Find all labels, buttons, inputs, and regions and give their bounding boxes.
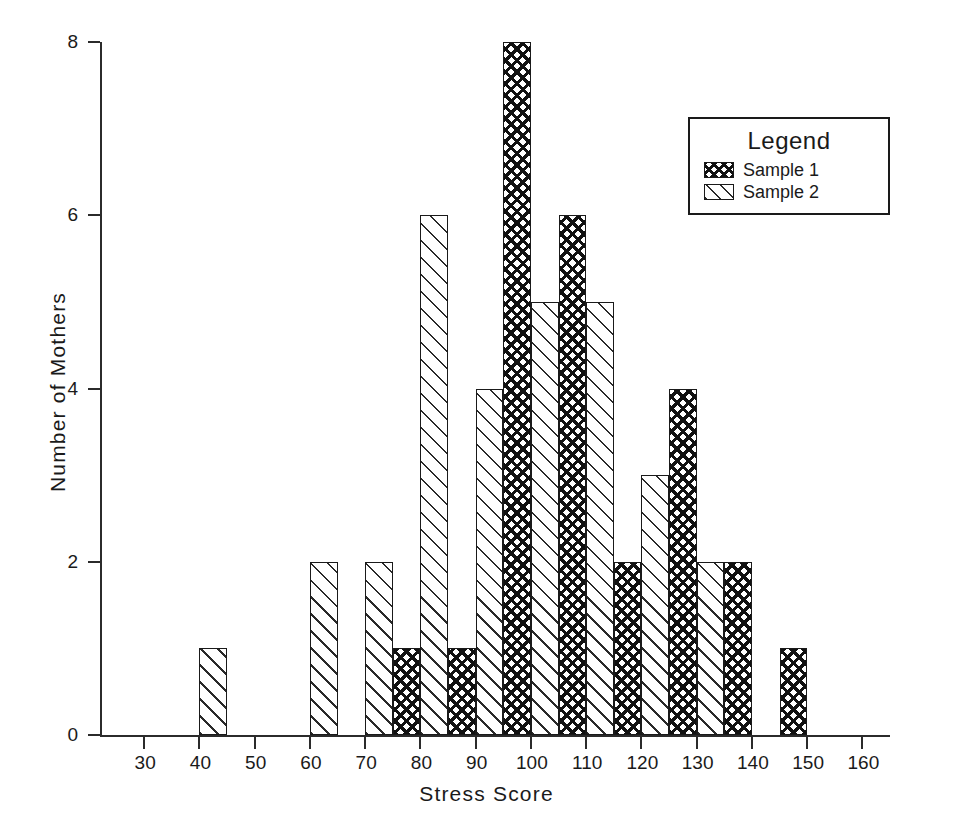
y-axis-title: Number of Mothers: [46, 192, 70, 592]
legend-title: Legend: [690, 127, 888, 155]
bar-sample-2-130-135: [697, 562, 725, 735]
legend-item-sample-2[interactable]: Sample 2: [690, 181, 888, 203]
bar-sample-1-95-100: [503, 42, 531, 735]
legend-swatch-diagonal-hatch-icon: [704, 184, 734, 200]
bar-sample-1-145-150: [780, 648, 808, 735]
bar-sample-1-125-130: [669, 389, 697, 736]
bar-sample-1-115-120: [614, 562, 642, 735]
bar-sample-1-85-90: [448, 648, 476, 735]
bar-sample-2-110-115: [586, 302, 614, 735]
bar-sample-2-120-125: [641, 475, 669, 735]
x-axis-title: Stress Score: [0, 782, 973, 806]
bar-sample-1-75-80: [393, 648, 421, 735]
legend-item-sample-1[interactable]: Sample 1: [690, 159, 888, 181]
bar-sample-2-80-85: [420, 215, 448, 735]
bar-sample-2-70-75: [365, 562, 393, 735]
legend-swatch-crosshatch-icon: [704, 162, 734, 178]
legend-label-sample-2: Sample 2: [743, 182, 819, 202]
bar-sample-2-40-45: [199, 648, 227, 735]
bar-sample-1-135-140: [724, 562, 752, 735]
legend: Legend Sample 1 Sample 2: [688, 117, 890, 215]
bar-sample-2-90-95: [476, 389, 504, 736]
bar-sample-2-100-105: [531, 302, 559, 735]
bar-sample-2-60-65: [310, 562, 338, 735]
legend-label-sample-1: Sample 1: [743, 160, 819, 180]
bar-sample-1-105-110: [559, 215, 587, 735]
histogram-chart: 02468 3040506070809010011012013014015016…: [0, 0, 973, 826]
